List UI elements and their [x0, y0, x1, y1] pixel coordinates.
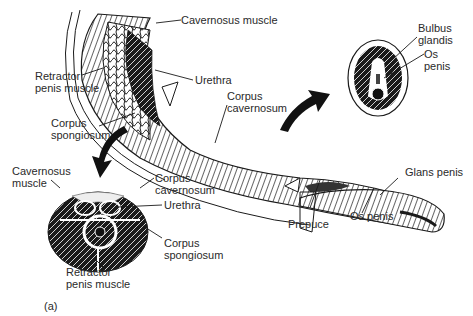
label-os-penis: Os penis: [350, 210, 393, 222]
label-bulbus-glandis: Bulbus glandis: [418, 22, 453, 46]
anatomy-diagram: Cavernosus muscle Retractor penis muscle…: [0, 0, 473, 316]
distal-cross-section: [348, 40, 408, 116]
label-corpus-cavernosum: Corpus cavernosum: [227, 90, 287, 114]
label-corpus-spongiosum: Corpus spongiosum: [51, 117, 110, 141]
label-glans-penis: Glans penis: [405, 166, 463, 178]
panel-label: (a): [44, 300, 57, 312]
label-distal-os-penis: Os penis: [424, 48, 450, 72]
arrow-to-distal-section: [280, 90, 330, 132]
label-cs-cavernosus-muscle: Cavernosus muscle: [12, 165, 71, 189]
label-urethra: Urethra: [195, 74, 232, 86]
label-prepuce: Prepuce: [288, 218, 329, 230]
proximal-cross-section: [48, 192, 148, 272]
label-cs-corpus-cavernosum: Corpus cavernosum: [155, 172, 215, 196]
label-retractor-penis-muscle: Retractor penis muscle: [35, 70, 99, 94]
label-cs-urethra: Urethra: [164, 199, 201, 211]
label-cs-retractor-penis-muscle: Retractor penis muscle: [66, 266, 130, 290]
label-cs-corpus-spongiosum: Corpus spongiosum: [164, 237, 223, 261]
label-cavernosus-muscle: Cavernosus muscle: [181, 14, 278, 26]
